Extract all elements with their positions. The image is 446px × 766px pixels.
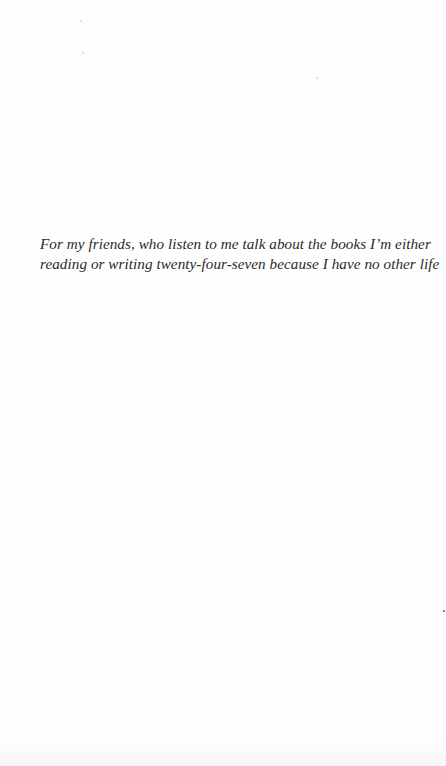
scan-speck: [82, 52, 84, 54]
scan-speck: [443, 610, 445, 612]
dedication-text: For my friends, who listen to me talk ab…: [40, 234, 432, 274]
book-page: For my friends, who listen to me talk ab…: [0, 0, 446, 766]
scan-speck: [80, 20, 82, 22]
scan-edge-noise: [0, 738, 446, 766]
scan-speck: [316, 77, 318, 79]
dedication-line-2: reading or writing twenty-four-seven bec…: [40, 254, 432, 274]
dedication-line-1: For my friends, who listen to me talk ab…: [40, 234, 432, 254]
